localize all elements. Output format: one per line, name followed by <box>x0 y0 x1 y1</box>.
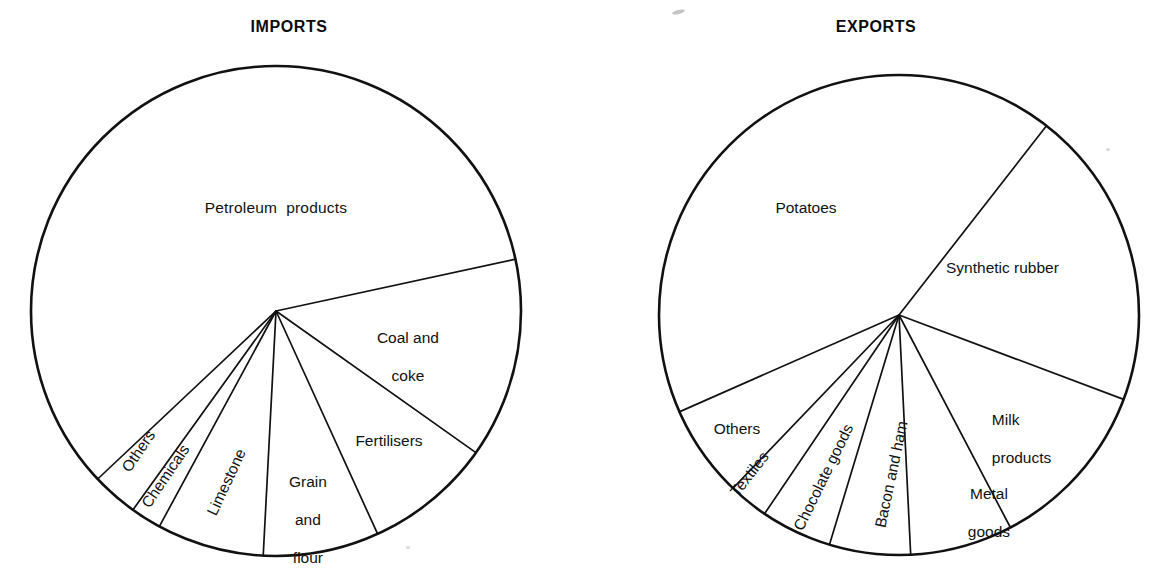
imports-label-coal-line2: coke <box>392 367 425 384</box>
imports-label-grain-and-flour: Grain and flour <box>245 454 345 576</box>
imports-label-grain-line1: Grain <box>289 473 327 490</box>
imports-label-coal-and-coke: Coal and coke <box>310 310 480 405</box>
imports-panel: IMPORTS Petroleum products Coal and coke… <box>0 0 576 576</box>
exports-pie-svg <box>576 0 1152 576</box>
exports-label-milk-line2: products <box>992 449 1051 466</box>
imports-label-fertilisers: Fertilisers <box>314 432 464 451</box>
imports-label-coal-line1: Coal and <box>377 329 439 346</box>
exports-label-milk-line1: Milk <box>992 411 1020 428</box>
exports-label-synthetic-rubber: Synthetic rubber <box>946 259 1152 278</box>
exports-label-metal-goods: Metal goods <box>916 466 1036 561</box>
exports-label-metal-line1: Metal <box>970 485 1008 502</box>
exports-panel: EXPORTS Potatoes Synthetic rubber Milk p… <box>576 0 1152 576</box>
exports-label-others: Others <box>682 420 792 439</box>
imports-label-grain-line3: flour <box>293 549 323 566</box>
imports-label-grain-line2: and <box>295 511 321 528</box>
exports-label-potatoes: Potatoes <box>706 199 906 218</box>
imports-label-petroleum-products: Petroleum products <box>96 199 456 218</box>
exports-label-metal-line2: goods <box>968 523 1010 540</box>
pie-chart-figure: IMPORTS Petroleum products Coal and coke… <box>0 0 1152 576</box>
